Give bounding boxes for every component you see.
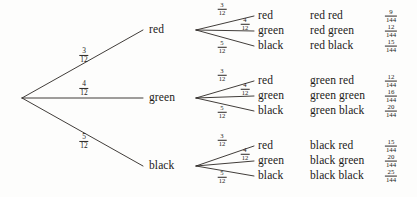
prob-green-to-black-numerator: 5 xyxy=(218,105,227,112)
prob-green-to-red: 3 12 xyxy=(218,68,227,82)
prob-black-to-green: 4 12 xyxy=(241,147,250,161)
result-red-red-numerator: 9 xyxy=(385,9,397,16)
outcome-green-green: green green xyxy=(310,90,365,102)
leaf-node-green-black: black xyxy=(258,105,283,117)
prob-black-to-green-denominator: 12 xyxy=(241,154,250,162)
outcome-red-green: red green xyxy=(310,25,354,37)
prob-red-to-red-numerator: 3 xyxy=(218,2,227,9)
prob-red-to-green: 4 12 xyxy=(241,17,250,31)
result-green-black-numerator: 20 xyxy=(385,104,397,111)
prob-root-to-black-numerator: 5 xyxy=(79,133,88,141)
prob-red-to-black: 5 12 xyxy=(218,40,227,54)
outcome-red-black: red black xyxy=(310,40,353,52)
prob-red-to-black-numerator: 5 xyxy=(218,40,227,47)
leaf-node-green-green: green xyxy=(258,90,284,102)
result-red-red: 9 144 xyxy=(385,9,397,24)
leaf-node-green-red: red xyxy=(258,75,273,87)
result-green-red-numerator: 12 xyxy=(385,74,397,81)
prob-green-to-black: 5 12 xyxy=(218,105,227,119)
result-green-black: 20 144 xyxy=(385,104,397,119)
result-green-green-numerator: 16 xyxy=(385,89,397,96)
prob-green-to-red-numerator: 3 xyxy=(218,68,227,75)
stage1-node-green: green xyxy=(149,92,175,104)
outcome-red-red: red red xyxy=(310,10,343,22)
prob-red-to-green-denominator: 12 xyxy=(241,24,250,32)
result-red-black: 15 144 xyxy=(385,39,397,54)
prob-black-to-red-numerator: 3 xyxy=(218,133,227,140)
branch-black-to-green xyxy=(196,161,254,166)
prob-root-to-red: 3 12 xyxy=(79,47,88,63)
stage1-node-black: black xyxy=(149,160,174,172)
prob-red-to-red: 3 12 xyxy=(218,2,227,16)
outcome-black-red: black red xyxy=(310,140,353,152)
result-black-green: 20 144 xyxy=(385,154,397,169)
outcome-black-green: black green xyxy=(310,155,364,167)
result-black-green-numerator: 20 xyxy=(385,154,397,161)
result-green-black-denominator: 144 xyxy=(385,111,397,119)
result-black-black-denominator: 144 xyxy=(385,176,397,184)
branch-green-to-green xyxy=(196,96,254,98)
prob-root-to-green: 4 12 xyxy=(79,80,88,96)
outcome-black-black: black black xyxy=(310,170,364,182)
prob-red-to-red-denominator: 12 xyxy=(218,9,227,17)
result-black-red: 15 144 xyxy=(385,139,397,154)
prob-black-to-red-denominator: 12 xyxy=(218,140,227,148)
stage1-node-red: red xyxy=(149,24,164,36)
probability-tree-diagram: red green black 3 12 4 12 5 12 3 12 4 12… xyxy=(0,0,417,197)
outcome-green-black: green black xyxy=(310,105,364,117)
result-green-green: 16 144 xyxy=(385,89,397,104)
prob-root-to-black: 5 12 xyxy=(79,133,88,149)
prob-black-to-green-numerator: 4 xyxy=(241,147,250,154)
leaf-node-red-black: black xyxy=(258,40,283,52)
prob-green-to-green-numerator: 4 xyxy=(241,82,250,89)
prob-root-to-red-numerator: 3 xyxy=(79,47,88,55)
prob-black-to-black-denominator: 12 xyxy=(218,177,227,185)
prob-root-to-green-numerator: 4 xyxy=(79,80,88,88)
result-green-red: 12 144 xyxy=(385,74,397,89)
prob-root-to-red-denominator: 12 xyxy=(79,55,88,64)
prob-red-to-black-denominator: 12 xyxy=(218,47,227,55)
outcome-green-red: green red xyxy=(310,75,354,87)
result-black-black: 25 144 xyxy=(385,169,397,184)
result-red-green: 12 144 xyxy=(385,24,397,39)
prob-green-to-black-denominator: 12 xyxy=(218,112,227,120)
leaf-node-black-black: black xyxy=(258,170,283,182)
leaf-node-black-green: green xyxy=(258,155,284,167)
prob-black-to-black: 5 12 xyxy=(218,170,227,184)
leaf-node-black-red: red xyxy=(258,140,273,152)
prob-green-to-green-denominator: 12 xyxy=(241,89,250,97)
prob-root-to-black-denominator: 12 xyxy=(79,141,88,150)
result-red-green-numerator: 12 xyxy=(385,24,397,31)
prob-green-to-red-denominator: 12 xyxy=(218,75,227,83)
result-black-black-numerator: 25 xyxy=(385,169,397,176)
result-red-black-numerator: 15 xyxy=(385,39,397,46)
prob-black-to-black-numerator: 5 xyxy=(218,170,227,177)
leaf-node-red-green: green xyxy=(258,25,284,37)
prob-root-to-green-denominator: 12 xyxy=(79,88,88,97)
prob-green-to-green: 4 12 xyxy=(241,82,250,96)
result-red-black-denominator: 144 xyxy=(385,46,397,54)
prob-red-to-green-numerator: 4 xyxy=(241,17,250,24)
prob-black-to-red: 3 12 xyxy=(218,133,227,147)
leaf-node-red-red: red xyxy=(258,10,273,22)
result-black-red-numerator: 15 xyxy=(385,139,397,146)
